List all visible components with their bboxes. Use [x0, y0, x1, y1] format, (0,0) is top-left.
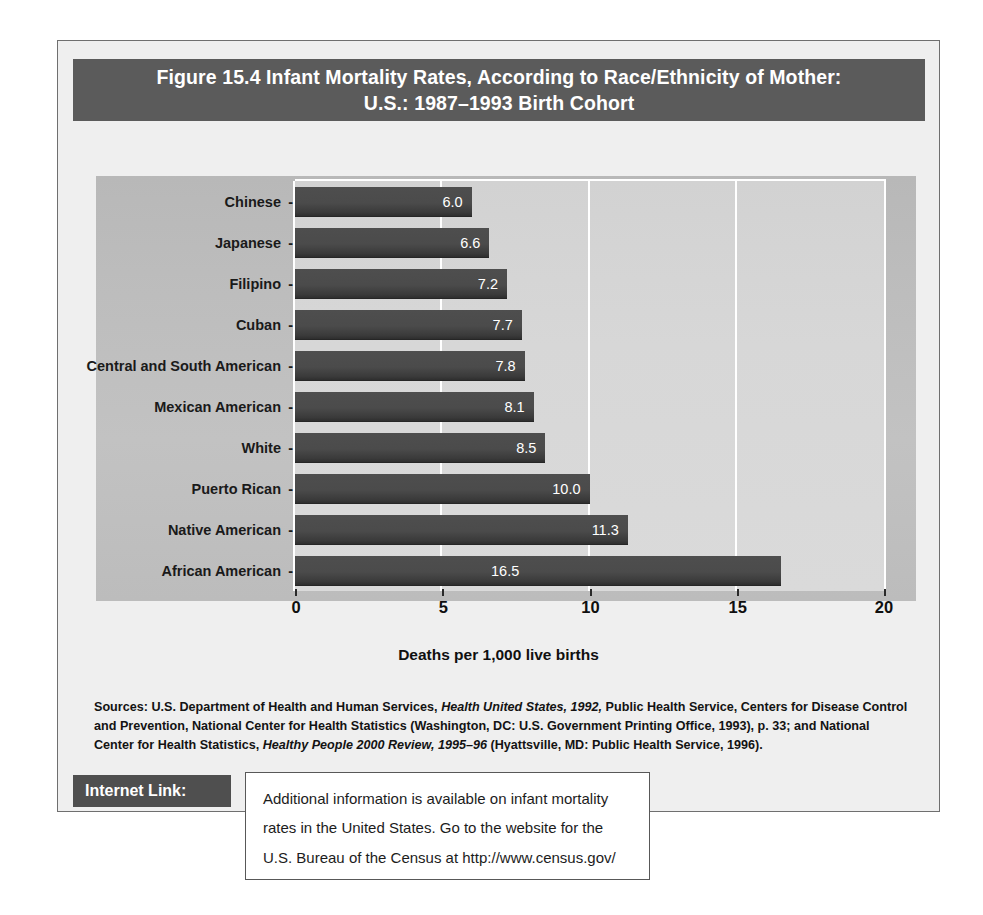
bar-value-label: 11.3: [592, 522, 619, 538]
category-label: Chinese: [225, 194, 281, 210]
sources-note: Sources: U.S. Department of Health and H…: [94, 698, 910, 755]
bar-value-label: 6.0: [443, 194, 463, 210]
sources-italic-1: Health United States, 1992,: [441, 700, 602, 714]
bar-value-label: 7.2: [478, 276, 498, 292]
bar-value-label: 7.7: [493, 317, 513, 333]
bar-value-label: 7.8: [496, 358, 516, 374]
bar: 7.7: [295, 310, 522, 339]
category-tick-icon: -: [288, 194, 293, 210]
table-row: Cuban - 7.7: [295, 304, 884, 345]
table-row: Japanese - 6.6: [295, 222, 884, 263]
figure-title-line-2: U.S.: 1987–1993 Birth Cohort: [364, 90, 634, 116]
category-tick-icon: -: [288, 399, 293, 415]
internet-link-line-2: rates in the United States. Go to the we…: [263, 813, 649, 842]
x-tick-mark-5: [442, 589, 444, 596]
figure-title-bar: Figure 15.4 Infant Mortality Rates, Acco…: [73, 59, 925, 121]
x-tick-mark-20: [884, 589, 886, 596]
table-row: Mexican American - 8.1: [295, 386, 884, 427]
bar-value-label: 16.5: [491, 563, 519, 579]
x-axis-title: Deaths per 1,000 live births: [58, 646, 939, 664]
bar: 7.8: [295, 351, 525, 380]
chart-background-band: Chinese - 6.0 Japanese - 6.6 Filipino -: [96, 176, 916, 601]
category-label: White: [242, 440, 281, 456]
bar: 10.0: [295, 474, 590, 503]
bar: 7.2: [295, 269, 507, 298]
category-tick-icon: -: [288, 358, 293, 374]
x-tick-label-5: 5: [439, 598, 448, 617]
figure-panel: Figure 15.4 Infant Mortality Rates, Acco…: [57, 40, 940, 812]
category-tick-icon: -: [288, 276, 293, 292]
figure-title-line-1: Figure 15.4 Infant Mortality Rates, Acco…: [157, 64, 842, 90]
x-tick-mark-0: [295, 589, 297, 596]
category-tick-icon: -: [288, 563, 293, 579]
category-label: Central and South American: [87, 358, 281, 374]
table-row: Chinese - 6.0: [295, 181, 884, 222]
bar-value-label: 10.0: [552, 481, 580, 497]
table-row: Central and South American - 7.8: [295, 345, 884, 386]
x-tick-label-20: 20: [875, 598, 893, 617]
internet-link-callout-box: Additional information is available on i…: [245, 772, 650, 880]
table-row: African American - 16.5: [295, 550, 884, 591]
table-row: White - 8.5: [295, 427, 884, 468]
category-tick-icon: -: [288, 481, 293, 497]
category-label: Mexican American: [154, 399, 281, 415]
bar-value-label: 8.1: [504, 399, 524, 415]
category-label: Puerto Rican: [192, 481, 281, 497]
x-tick-mark-15: [737, 589, 739, 596]
table-row: Filipino - 7.2: [295, 263, 884, 304]
x-tick-label-15: 15: [729, 598, 747, 617]
category-label: Native American: [168, 522, 281, 538]
x-axis: 0 5 10 15 20: [295, 589, 884, 629]
bar: 6.0: [295, 187, 472, 216]
sources-text-part-3: (Hyattsville, MD: Public Health Service,…: [487, 738, 763, 752]
category-tick-icon: -: [288, 235, 293, 251]
bar: 16.5: [295, 556, 781, 585]
internet-link-line-1: Additional information is available on i…: [263, 784, 649, 813]
x-tick-label-0: 0: [291, 598, 300, 617]
internet-link-line-3: U.S. Bureau of the Census at http://www.…: [263, 843, 649, 872]
bar: 8.5: [295, 433, 545, 462]
category-label: Filipino: [229, 276, 281, 292]
table-row: Puerto Rican - 10.0: [295, 468, 884, 509]
bar: 11.3: [295, 515, 628, 544]
category-label: Cuban: [236, 317, 281, 333]
category-tick-icon: -: [288, 317, 293, 333]
internet-link-label: Internet Link:: [73, 775, 231, 807]
sources-italic-2: Healthy People 2000 Review, 1995–96: [263, 738, 487, 752]
x-tick-label-10: 10: [581, 598, 599, 617]
bar: 8.1: [295, 392, 534, 421]
category-tick-icon: -: [288, 440, 293, 456]
category-tick-icon: -: [288, 522, 293, 538]
x-tick-mark-10: [590, 589, 592, 596]
sources-text-part-1: Sources: U.S. Department of Health and H…: [94, 700, 441, 714]
bar-rows: Chinese - 6.0 Japanese - 6.6 Filipino -: [295, 181, 884, 591]
chart-plot-area: Chinese - 6.0 Japanese - 6.6 Filipino -: [295, 179, 886, 591]
bar-value-label: 8.5: [516, 440, 536, 456]
table-row: Native American - 11.3: [295, 509, 884, 550]
bar-value-label: 6.6: [460, 235, 480, 251]
bar: 6.6: [295, 228, 489, 257]
category-label: Japanese: [215, 235, 281, 251]
category-label: African American: [161, 563, 281, 579]
